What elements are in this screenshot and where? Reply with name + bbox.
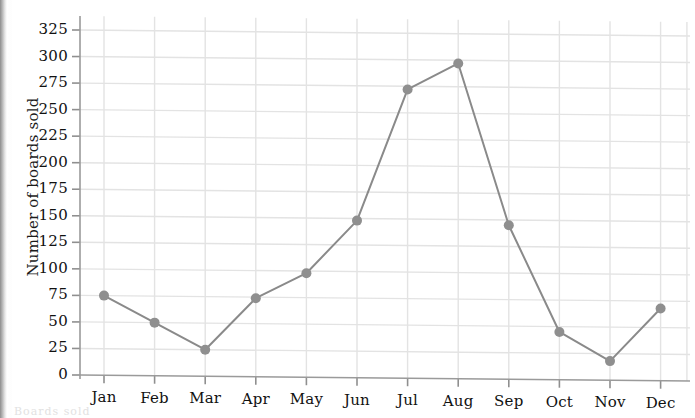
x-tick-label-Dec: Dec [631,394,691,412]
y-tick-label-225: 225 [22,126,68,144]
gridline-horizontal-225 [80,136,690,142]
gridline-horizontal-100 [80,269,690,275]
series-line [104,63,661,361]
y-tick-label-100: 100 [22,259,68,277]
data-point-Nov [605,356,615,366]
y-tick-label-275: 275 [22,73,68,91]
page-gutter-highlight [7,0,12,418]
data-point-Sep [504,220,514,230]
gridline-horizontal-275 [80,83,690,89]
page-bleed-text: Boards sold [14,405,91,418]
y-tick-label-200: 200 [22,153,68,171]
data-point-Feb [150,318,160,328]
chart-canvas [0,0,695,418]
x-axis-spine [80,375,690,381]
y-tick-label-125: 125 [22,232,68,250]
line-chart-figure: Number of boards sold 025507510012515017… [0,0,695,418]
gridline-horizontal-125 [80,242,690,248]
data-point-Oct [554,327,564,337]
y-tick-label-25: 25 [22,338,68,356]
y-tick-label-300: 300 [22,47,68,65]
gridline-horizontal-325 [80,30,690,36]
y-tick-label-150: 150 [22,206,68,224]
y-tick-label-50: 50 [22,312,68,330]
gridline-horizontal-150 [80,216,690,222]
data-point-Dec [656,304,666,314]
gridline-horizontal-300 [80,57,690,63]
data-series-group [99,58,666,366]
gridline-horizontal-50 [80,322,690,328]
gridline-horizontal-200 [80,163,690,169]
y-tick-label-75: 75 [22,285,68,303]
y-tick-label-0: 0 [22,365,68,383]
data-point-May [301,268,311,278]
gridline-horizontal-250 [80,110,690,116]
gridlines-group [80,16,690,381]
data-point-Jul [403,84,413,94]
page-gutter-shadow [0,0,7,418]
gridline-horizontal-175 [80,189,690,195]
data-point-Apr [251,293,261,303]
y-tick-label-250: 250 [22,100,68,118]
axis-spines-group [80,16,690,381]
gridline-horizontal-75 [80,295,690,301]
y-tick-label-325: 325 [22,20,68,38]
data-point-Jun [352,216,362,226]
data-point-Mar [200,345,210,355]
data-point-Jan [99,291,109,301]
y-tick-label-175: 175 [22,179,68,197]
data-point-Aug [453,58,463,68]
